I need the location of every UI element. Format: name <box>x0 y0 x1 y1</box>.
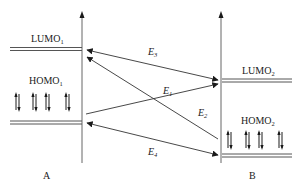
homo2-electron-pairs <box>226 130 283 150</box>
e4-label: E4 <box>147 146 158 158</box>
homo2-label: HOMO2 <box>241 115 275 127</box>
e2-label: E2 <box>197 107 208 119</box>
axis-b <box>219 11 224 163</box>
spin-pair-icon <box>244 130 250 150</box>
homo1-level <box>10 121 82 124</box>
axis-a <box>80 11 85 163</box>
axis-b-arrow-icon <box>219 11 224 18</box>
lumo1-level <box>10 48 82 51</box>
spin-pair-icon <box>257 130 263 150</box>
lumo2-label: LUMO2 <box>242 65 275 77</box>
spin-pair-icon <box>64 92 70 112</box>
molecule-b-label: B <box>249 170 256 181</box>
axis-a-arrow-icon <box>80 11 85 18</box>
spin-pair-icon <box>226 130 232 150</box>
spin-pair-icon <box>31 92 37 112</box>
transition-e2-arrow <box>87 57 218 139</box>
lumo1-label: LUMO1 <box>31 33 64 45</box>
homo1-electron-pairs <box>14 92 70 112</box>
homo1-label: HOMO1 <box>29 75 63 87</box>
lumo2-level <box>222 79 292 82</box>
molecule-a-label: A <box>43 170 51 181</box>
spin-pair-icon <box>277 130 283 150</box>
homo2-level <box>222 154 292 157</box>
spin-pair-icon <box>14 92 20 112</box>
e1-label: E1 <box>162 85 172 97</box>
energy-level-diagram: LUMO1 HOMO1 LUMO2 HOMO2 E3 E1 E2 E4 A B <box>0 0 300 189</box>
e3-label: E3 <box>147 46 158 58</box>
spin-pair-icon <box>44 92 50 112</box>
